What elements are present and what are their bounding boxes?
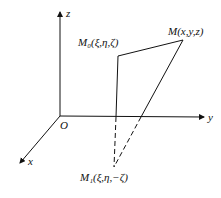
x-axis <box>20 116 60 163</box>
diagram-canvas: z y x O M₀(ξ,η,ζ) M(x,y,z) M₁(ξ,η,−ζ) <box>0 0 221 198</box>
segment-m0-down-solid <box>116 56 118 117</box>
segment-m0-m1-dashed <box>114 117 116 167</box>
z-axis-label: z <box>66 8 70 19</box>
point-m0-label: M₀(ξ,η,ζ) <box>78 37 118 48</box>
segment-m-m1-dashed <box>114 117 141 167</box>
origin-label: O <box>60 120 68 131</box>
y-axis-label: y <box>208 112 213 123</box>
segment-m0-m <box>118 40 183 56</box>
y-axis <box>60 116 204 117</box>
point-m-label: M(x,y,z) <box>168 26 203 37</box>
x-axis-label: x <box>28 156 33 167</box>
segment-m-m1-solid <box>141 40 183 117</box>
point-m1-label: M₁(ξ,η,−ζ) <box>80 172 128 183</box>
